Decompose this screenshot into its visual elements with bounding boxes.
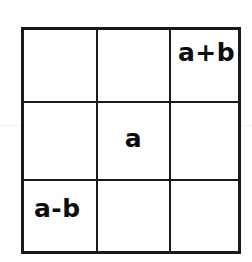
grid-cell-r0c1[interactable] [98,30,171,103]
grid-cell-r2c1[interactable] [98,181,171,251]
grid-cell-r1c1[interactable]: a [98,103,171,181]
grid-cell-r1c0[interactable] [24,103,98,181]
grid-cell-r0c2[interactable]: a+b [171,30,238,103]
grid-cell-r0c0[interactable] [24,30,98,103]
grid-cell-label: a [98,125,169,153]
grid-figure: a+b a a-b [21,27,241,254]
grid-cell-label: a-b [34,195,81,223]
grid-cell-r2c2[interactable] [171,181,238,251]
grid-cell-r1c2[interactable] [171,103,238,181]
grid-cell-r2c0[interactable]: a-b [24,181,98,251]
grid-cell-label: a+b [178,39,235,67]
